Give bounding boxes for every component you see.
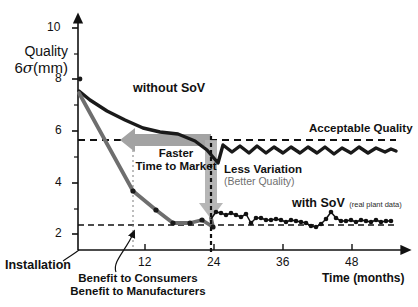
ytick-label-2: 2 (55, 227, 62, 240)
y-axis-title-line1: Quality (12, 44, 68, 60)
with-sov-block: with SoV (real plant data) (292, 193, 402, 211)
installation-label: Installation (5, 258, 71, 272)
xtick-label-12: 12 (138, 256, 151, 269)
benefit-block: Benefit to Consumers Benefit to Manufact… (58, 272, 218, 298)
x-axis-title: Time (months) (322, 272, 404, 285)
y-axis-title-num: 6 (14, 59, 22, 76)
faster-label-line1: Faster (131, 147, 221, 160)
real-plant-data-label: (real plant data) (349, 200, 402, 209)
less-variation-label: Less Variation (224, 163, 302, 176)
ytick-label-4: 4 (55, 176, 62, 189)
series-real-plant-data-markers (214, 210, 394, 230)
ytick-label-6: 6 (55, 124, 62, 137)
faster-label-line2: Time to Market (131, 160, 221, 173)
acceptable-quality-label: Acceptable Quality (309, 122, 413, 135)
less-variation-block: Less Variation (Better Quality) (224, 163, 302, 188)
faster-time-to-market-label: Faster Time to Market (131, 147, 221, 173)
with-sov-label: with SoV (292, 196, 345, 210)
xtick-label-36: 36 (276, 256, 289, 269)
benefit-manufacturers-label: Benefit to Manufacturers (58, 285, 218, 298)
ytick-label-10: 10 (47, 21, 60, 34)
y-axis-title-unit: (mm) (33, 59, 68, 76)
y-axis (72, 22, 78, 250)
without-sov-label: without SoV (133, 81, 205, 95)
chart-figure: Quality 6σ(mm) 10 8 6 4 2 12 24 36 48 Ti… (0, 0, 418, 307)
better-quality-label: (Better Quality) (224, 176, 302, 188)
ytick-label-8: 8 (55, 72, 62, 85)
benefit-consumers-label: Benefit to Consumers (58, 272, 218, 285)
sigma-symbol: σ (23, 59, 33, 77)
xtick-label-24: 24 (207, 256, 220, 269)
xtick-label-48: 48 (345, 256, 358, 269)
benefit-callout-arrow (115, 234, 133, 272)
